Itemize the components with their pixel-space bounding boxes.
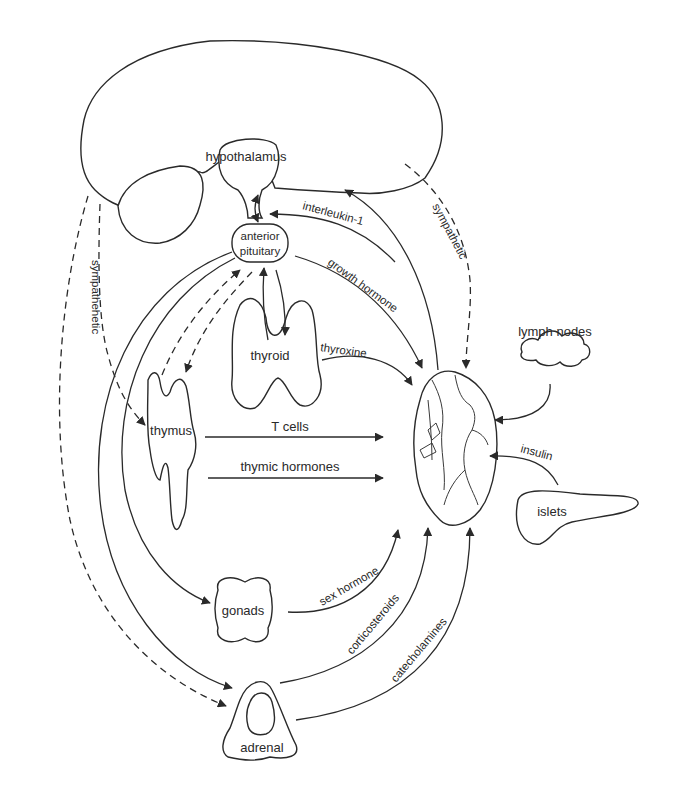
sympathetic-left-label: sympathehetic bbox=[90, 260, 102, 334]
islets-label: islets bbox=[537, 504, 567, 519]
lymph-nodes-label: lymph nodes bbox=[518, 324, 592, 339]
thyroxine-arrow bbox=[322, 356, 412, 385]
diagram-canvas: hypothalamus anterior pituitary thyroid … bbox=[0, 0, 677, 798]
anterior-pituitary-label-line1: anterior bbox=[241, 230, 280, 242]
lymph-nodes-to-spleen-arrow bbox=[495, 384, 550, 420]
thymic-hormones-label: thymic hormones bbox=[241, 459, 340, 474]
growth-hormone-label: growth hormone bbox=[326, 256, 400, 315]
sympathetic-right-label: sympathetic bbox=[430, 201, 470, 261]
anterior-pituitary: anterior pituitary bbox=[232, 224, 288, 262]
spleen bbox=[414, 371, 497, 525]
thymus: thymus bbox=[148, 373, 196, 530]
catecholamines-label: catecholamines bbox=[388, 615, 449, 684]
t-cells-label: T cells bbox=[271, 419, 309, 434]
sex-hormone-label: sex hormone bbox=[317, 564, 381, 608]
adrenal: adrenal bbox=[223, 682, 297, 760]
adrenal-label: adrenal bbox=[240, 740, 283, 755]
thymus-label: thymus bbox=[150, 423, 192, 438]
sex-hormone-arrow bbox=[288, 530, 398, 612]
gonads-label: gonads bbox=[222, 603, 265, 618]
islets: islets bbox=[517, 491, 639, 544]
thyroid: thyroid bbox=[232, 299, 321, 409]
gonads: gonads bbox=[215, 578, 272, 642]
brain-to-adrenal-dashed-arrow bbox=[60, 196, 226, 706]
thyroid-label: thyroid bbox=[250, 348, 289, 363]
lymph-nodes: lymph nodes bbox=[518, 324, 592, 366]
sympathetic-right-dashed-arrow bbox=[405, 164, 470, 368]
anterior-pituitary-label-line2: pituitary bbox=[240, 245, 281, 257]
hypothalamus-label: hypothalamus bbox=[206, 149, 287, 164]
